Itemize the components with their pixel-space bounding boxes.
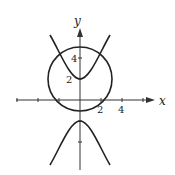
- x-axis: [16, 97, 155, 103]
- y-tick-label-4: 4: [71, 53, 77, 64]
- x-tick-label-2: 2: [97, 104, 103, 115]
- x-axis-arrow-icon: [146, 97, 155, 103]
- x-axis-label: x: [159, 94, 166, 108]
- y-tick-label-2: 2: [66, 74, 72, 85]
- coordinate-plane: y x 2 4 2 4: [0, 0, 175, 175]
- y-axis-label: y: [73, 14, 81, 28]
- x-tick-label-4: 4: [118, 104, 124, 115]
- y-axis-arrow-icon: [77, 28, 83, 37]
- y-axis: [77, 28, 83, 170]
- graph-figure: y x 2 4 2 4: [0, 0, 175, 175]
